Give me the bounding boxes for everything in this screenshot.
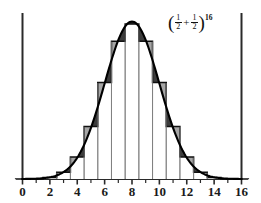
numerator: 1 bbox=[192, 14, 198, 23]
open-paren: ( bbox=[168, 13, 174, 32]
x-tick-label-16: 16 bbox=[232, 185, 252, 199]
fraction-one-half-second: 1 2 bbox=[191, 14, 198, 32]
x-tick-label-8: 8 bbox=[122, 185, 142, 199]
fraction-one-half-first: 1 2 bbox=[175, 14, 182, 32]
formula-annotation: ( 1 2 + 1 2 ) 16 bbox=[168, 13, 212, 32]
x-tick-label-10: 10 bbox=[149, 185, 169, 199]
x-tick-label-0: 0 bbox=[13, 185, 33, 199]
plus-sign: + bbox=[183, 17, 189, 28]
bar-k9 bbox=[139, 41, 153, 179]
x-tick-label-4: 4 bbox=[67, 185, 87, 199]
bar-k8 bbox=[125, 24, 139, 179]
x-tick-label-6: 6 bbox=[95, 185, 115, 199]
numerator: 1 bbox=[175, 14, 181, 23]
x-tick-label-12: 12 bbox=[177, 185, 197, 199]
binomial-histogram-figure: 0246810121416 ( 1 2 + 1 2 ) 16 bbox=[0, 0, 261, 203]
x-tick-label-14: 14 bbox=[204, 185, 224, 199]
histogram-bars bbox=[43, 24, 221, 179]
x-tick-label-2: 2 bbox=[40, 185, 60, 199]
denominator: 2 bbox=[175, 23, 181, 32]
plot-canvas bbox=[0, 0, 261, 203]
exponent: 16 bbox=[205, 13, 213, 22]
bar-k7 bbox=[111, 41, 125, 179]
denominator: 2 bbox=[192, 23, 198, 32]
